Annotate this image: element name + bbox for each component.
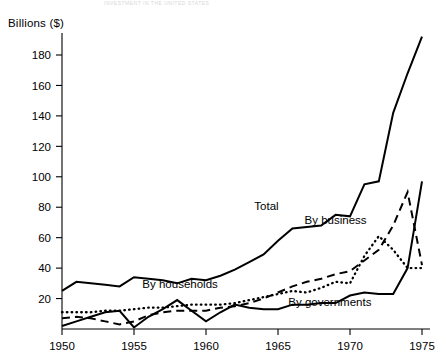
y-tick-label: 100: [32, 171, 51, 183]
y-tick-label: 180: [32, 49, 51, 61]
series-label-by-governments: By governments: [288, 296, 371, 308]
x-tick-label: 1975: [409, 340, 435, 352]
y-tick-label: 120: [32, 141, 51, 153]
series-group: [62, 37, 422, 328]
series-label-total: Total: [254, 200, 278, 212]
y-tick-label: 20: [38, 293, 51, 305]
series-label-by-households: By households: [142, 278, 218, 290]
y-tick-label: 140: [32, 110, 51, 122]
series-line-total: [62, 37, 422, 291]
y-tick-label: 80: [38, 201, 51, 213]
x-tick-label: 1965: [265, 340, 291, 352]
x-tick-label: 1970: [337, 340, 363, 352]
y-axis-title: Billions ($): [8, 17, 64, 29]
x-tick-label: 1950: [49, 340, 75, 352]
y-tick-group: 20406080100120140160180: [32, 49, 62, 305]
series-label-by-business: By business: [305, 214, 367, 226]
plot-area: 20406080100120140160180 1950195519601965…: [0, 0, 446, 363]
cropped-title-remnant: INVESTMENT IN THE UNITED STATES: [104, 0, 334, 5]
x-tick-label: 1955: [121, 340, 147, 352]
annotation-group: TotalBy businessBy householdsBy governme…: [142, 200, 371, 308]
x-tick-label: 1960: [193, 340, 219, 352]
y-tick-label: 160: [32, 80, 51, 92]
y-tick-label: 40: [38, 262, 51, 274]
x-tick-group: 195019551960196519701975: [49, 329, 435, 352]
investment-line-chart: INVESTMENT IN THE UNITED STATES Billions…: [0, 0, 446, 363]
y-tick-label: 60: [38, 232, 51, 244]
